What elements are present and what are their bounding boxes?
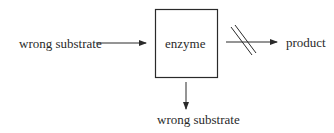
- input-label: wrong substrate: [19, 37, 102, 50]
- diagram-canvas: wrong substrate enzyme product wrong sub…: [0, 0, 334, 133]
- rejected-substrate-label: wrong substrate: [157, 113, 240, 126]
- enzyme-label: enzyme: [165, 37, 205, 50]
- product-label: product: [286, 36, 326, 49]
- blocked-icon: [231, 25, 256, 55]
